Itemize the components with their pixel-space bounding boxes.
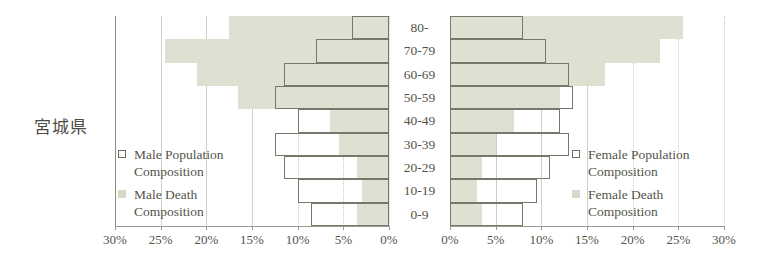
age-label-7079: 70-79: [389, 39, 450, 62]
legend-female-population-label: Female Population: [588, 147, 690, 162]
x-tick-label-20: 20%: [621, 232, 645, 248]
legend-female-death-label: Female Death: [588, 187, 663, 202]
legend-male-death-label-2: Composition: [134, 203, 268, 220]
bar-row-80: [115, 16, 389, 39]
population-bar: [311, 203, 389, 226]
population-bar: [298, 179, 389, 202]
x-tick: [678, 226, 679, 230]
age-label-5059: 50-59: [389, 86, 450, 109]
x-tick: [298, 226, 299, 230]
x-tick-label-0: 0%: [380, 232, 397, 248]
x-tick-label-30: 30%: [103, 232, 127, 248]
bar-row-6069: [450, 63, 724, 86]
x-tick: [450, 226, 451, 230]
population-bar: [450, 156, 550, 179]
bar-row-6069: [115, 63, 389, 86]
x-tick-label-25: 25%: [666, 232, 690, 248]
population-bar: [284, 63, 389, 86]
x-tick: [587, 226, 588, 230]
age-label-4049: 40-49: [389, 109, 450, 132]
age-label-1019: 10-19: [389, 179, 450, 202]
x-tick-label-15: 15%: [240, 232, 264, 248]
legend-male-population: Male Population Composition: [118, 146, 268, 180]
male-x-axis: 30%25%20%15%10%5%0%: [115, 226, 389, 252]
population-bar: [450, 63, 569, 86]
x-tick-label-25: 25%: [149, 232, 173, 248]
bar-row-7079: [115, 39, 389, 62]
population-bar: [316, 39, 389, 62]
death-square-filled-icon: [118, 190, 126, 198]
death-square-filled-icon: [572, 190, 580, 198]
legend-female-death: Female Death Composition: [572, 186, 732, 220]
population-square-outline-icon: [572, 150, 580, 158]
population-bar: [352, 16, 389, 39]
legend-male-death-label: Male Death: [134, 187, 197, 202]
bar-row-80: [450, 16, 724, 39]
x-tick-label-30: 30%: [712, 232, 736, 248]
age-label-6069: 60-69: [389, 63, 450, 86]
population-bar: [450, 203, 523, 226]
male-legend: Male Population Composition Male Death C…: [118, 146, 268, 226]
legend-female-death-label-2: Composition: [588, 203, 732, 220]
female-legend: Female Population Composition Female Dea…: [572, 146, 732, 226]
x-tick: [343, 226, 344, 230]
population-pyramid-figure: 宮城県 80-70-7960-6950-5940-4930-3920-2910-…: [0, 0, 782, 275]
x-tick: [115, 226, 116, 230]
x-tick-label-10: 10%: [286, 232, 310, 248]
population-bar: [275, 133, 389, 156]
x-tick: [161, 226, 162, 230]
x-tick-label-15: 15%: [575, 232, 599, 248]
population-bar: [450, 39, 546, 62]
population-bar: [450, 179, 537, 202]
x-tick-label-5: 5%: [335, 232, 352, 248]
age-label-80: 80-: [389, 16, 450, 39]
bar-row-5059: [115, 86, 389, 109]
population-bar: [450, 86, 573, 109]
age-label-3039: 30-39: [389, 133, 450, 156]
legend-female-population-label-2: Composition: [588, 163, 732, 180]
population-bar: [450, 16, 523, 39]
x-tick: [252, 226, 253, 230]
female-x-axis: 0%5%10%15%20%25%30%: [450, 226, 724, 252]
x-tick: [496, 226, 497, 230]
population-bar: [450, 109, 560, 132]
x-tick: [541, 226, 542, 230]
x-tick-label-5: 5%: [487, 232, 504, 248]
population-bar: [284, 156, 389, 179]
age-label-09: 0-9: [389, 203, 450, 226]
x-tick: [724, 226, 725, 230]
bar-row-7079: [450, 39, 724, 62]
population-bar: [275, 86, 389, 109]
legend-male-death: Male Death Composition: [118, 186, 268, 220]
x-tick-label-0: 0%: [441, 232, 458, 248]
bar-row-4049: [115, 109, 389, 132]
page-title: 宮城県: [34, 113, 88, 138]
population-square-outline-icon: [118, 150, 126, 158]
population-bar: [298, 109, 389, 132]
population-bar: [450, 133, 569, 156]
legend-female-population: Female Population Composition: [572, 146, 732, 180]
x-tick-label-10: 10%: [529, 232, 553, 248]
x-tick: [206, 226, 207, 230]
x-tick: [389, 226, 390, 230]
bar-row-5059: [450, 86, 724, 109]
x-tick: [633, 226, 634, 230]
age-group-axis: 80-70-7960-6950-5940-4930-3920-2910-190-…: [389, 16, 450, 226]
x-tick-label-20: 20%: [194, 232, 218, 248]
bar-row-4049: [450, 109, 724, 132]
age-label-2029: 20-29: [389, 156, 450, 179]
legend-male-population-label: Male Population: [134, 147, 224, 162]
legend-male-population-label-2: Composition: [134, 163, 268, 180]
